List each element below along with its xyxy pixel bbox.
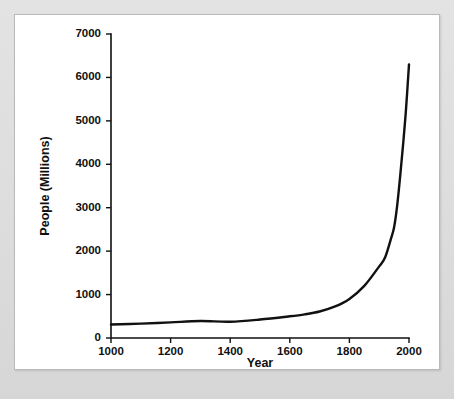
x-tick-label: 1800 — [337, 345, 363, 357]
x-axis-title: Year — [247, 356, 274, 370]
y-tick-label: 4000 — [75, 157, 101, 169]
x-tick-label: 1600 — [277, 345, 303, 357]
y-tick-label: 2000 — [75, 244, 101, 256]
x-tick-label: 2000 — [396, 345, 422, 357]
axis-spine — [111, 34, 409, 338]
y-tick-label: 7000 — [75, 27, 101, 39]
y-tick-label: 6000 — [75, 70, 101, 82]
x-tick-label: 1400 — [217, 345, 243, 357]
y-axis-tick-labels: 01000200030004000500060007000 — [75, 27, 101, 343]
x-tick-label: 1000 — [98, 345, 124, 357]
y-tick-label: 3000 — [75, 201, 101, 213]
figure-page: 01000200030004000500060007000 1000120014… — [0, 0, 454, 399]
y-tick-label: 5000 — [75, 114, 101, 126]
population-growth-chart: 01000200030004000500060007000 1000120014… — [15, 15, 441, 371]
y-axis-title: People (Millions) — [38, 136, 52, 235]
x-tick-label: 1200 — [158, 345, 184, 357]
population-curve — [111, 64, 409, 324]
y-tick-label: 1000 — [75, 288, 101, 300]
figure-card: 01000200030004000500060007000 1000120014… — [14, 14, 440, 370]
y-tick-label: 0 — [95, 331, 101, 343]
